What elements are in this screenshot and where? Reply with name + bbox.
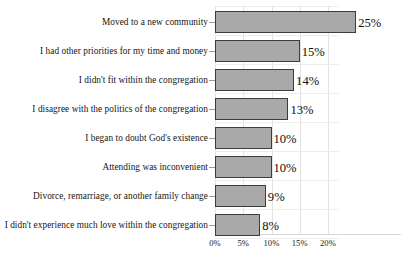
bar bbox=[215, 11, 356, 33]
bar bbox=[215, 185, 266, 207]
bar-row: I had other priorities for my time and m… bbox=[0, 37, 403, 66]
category-label: I began to doubt God's existence bbox=[85, 124, 208, 153]
x-tick-label: 5% bbox=[237, 238, 249, 248]
bar-row: I didn't experience much love within the… bbox=[0, 211, 403, 240]
bar-value-label: 15% bbox=[302, 41, 325, 63]
bar bbox=[215, 98, 288, 120]
bar-value-label: 14% bbox=[296, 70, 319, 92]
bar bbox=[215, 127, 272, 149]
category-label: I disagree with the politics of the cong… bbox=[32, 95, 208, 124]
bar bbox=[215, 214, 260, 236]
category-label: I didn't fit within the congregation bbox=[79, 66, 208, 95]
bar bbox=[215, 156, 272, 178]
x-axis: 0%5%10%15%20% bbox=[0, 238, 403, 256]
category-label: Divorce, remarriage, or another family c… bbox=[33, 182, 208, 211]
bar-row: I disagree with the politics of the cong… bbox=[0, 95, 403, 124]
bar-row: Attending was inconvenient10% bbox=[0, 153, 403, 182]
bar-rows: Moved to a new community25%I had other p… bbox=[0, 0, 403, 238]
bar bbox=[215, 69, 294, 91]
bar-value-label: 13% bbox=[290, 99, 313, 121]
x-tick-label: 20% bbox=[320, 238, 336, 248]
x-tick-label: 0% bbox=[209, 238, 221, 248]
bar-row: I began to doubt God's existence10% bbox=[0, 124, 403, 153]
x-tick-label: 15% bbox=[292, 238, 308, 248]
bar-row: Divorce, remarriage, or another family c… bbox=[0, 182, 403, 211]
category-label: I had other priorities for my time and m… bbox=[40, 37, 208, 66]
bar-value-label: 25% bbox=[358, 12, 381, 34]
bar-row: Moved to a new community25% bbox=[0, 8, 403, 37]
bar-value-label: 10% bbox=[274, 157, 297, 179]
category-label: Moved to a new community bbox=[102, 8, 208, 37]
category-label: I didn't experience much love within the… bbox=[5, 211, 208, 240]
bar-chart: Moved to a new community25%I had other p… bbox=[0, 0, 403, 267]
x-tick-label: 10% bbox=[263, 238, 279, 248]
bar-value-label: 8% bbox=[262, 215, 279, 237]
category-label: Attending was inconvenient bbox=[102, 153, 208, 182]
bar-value-label: 9% bbox=[268, 186, 285, 208]
bar bbox=[215, 40, 300, 62]
bar-row: I didn't fit within the congregation14% bbox=[0, 66, 403, 95]
bar-value-label: 10% bbox=[274, 128, 297, 150]
